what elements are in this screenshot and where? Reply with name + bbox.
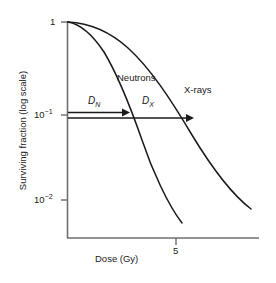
y-tick-label-1e-2-exponent: −2 (45, 193, 53, 200)
y-axis-title: Surviving fraction (log scale) (17, 46, 28, 216)
x-tick-label-5: 5 (173, 246, 178, 256)
y-tick-label-1e-1-exponent: −1 (45, 108, 53, 115)
x-axis-title: Dose (Gy) (95, 253, 138, 264)
annotation-label-dn-subscript: N (95, 101, 100, 108)
curve-label-neutrons: Neutrons (117, 73, 156, 83)
y-tick-label-1e-2-base: 10 (34, 194, 45, 205)
annotation-label-dx: DX (142, 96, 154, 106)
curve-label-xrays: X-rays (184, 85, 211, 95)
annotation-label-dn: DN (88, 96, 100, 106)
y-tick-label-1: 1 (50, 17, 55, 27)
curve-neutrons (68, 22, 182, 223)
y-tick-label-1e-2: 10−2 (34, 195, 53, 205)
survival-curve-figure: 1 10−1 10−2 5 Surviving fraction (log sc… (0, 0, 276, 283)
plot-area (0, 0, 276, 283)
annotation-label-dx-subscript: X (149, 101, 154, 108)
y-tick-label-1e-1: 10−1 (34, 110, 53, 120)
y-tick-label-1e-1-base: 10 (34, 109, 45, 120)
arrow-dn-head (122, 109, 130, 117)
arrow-dx-head (186, 114, 194, 122)
curve-xrays (68, 22, 251, 209)
